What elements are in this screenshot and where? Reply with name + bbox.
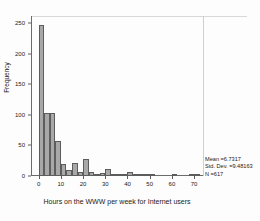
x-tick-mark — [83, 176, 84, 179]
y-tick-label: 0 — [22, 173, 25, 179]
y-tick-label: 100 — [15, 112, 25, 118]
y-tick-mark — [28, 145, 31, 146]
x-tick-mark — [61, 176, 62, 179]
y-tick-label: 50 — [18, 142, 25, 148]
x-tick-label: 50 — [146, 181, 153, 187]
x-tick-label: 30 — [102, 181, 109, 187]
x-tick-label: 60 — [169, 181, 176, 187]
y-tick-mark — [28, 53, 31, 54]
x-tick-label: 0 — [37, 181, 40, 187]
x-tick-label: 20 — [80, 181, 87, 187]
x-tick-label: 10 — [58, 181, 65, 187]
histogram-chart: 050100150200250 Frequency 01020304050607… — [0, 0, 260, 221]
y-tick-label: 150 — [15, 81, 25, 87]
plot-frame-right-edge — [203, 16, 204, 176]
y-tick-label: 200 — [15, 51, 25, 57]
x-tick-mark — [39, 176, 40, 179]
x-tick-label: 70 — [191, 181, 198, 187]
y-axis-label: Frequency — [3, 48, 10, 108]
stat-mean: Mean =6.7317 — [205, 156, 253, 163]
x-axis: 010203040506070 — [32, 176, 203, 190]
y-tick-mark — [28, 176, 31, 177]
x-tick-mark — [105, 176, 106, 179]
stat-std-dev: Std. Dev. =9.48163 — [205, 163, 253, 170]
y-tick-label: 250 — [15, 20, 25, 26]
x-tick-mark — [127, 176, 128, 179]
x-tick-label: 40 — [124, 181, 131, 187]
statistics-annotation: Mean =6.7317 Std. Dev. =9.48163 N =617 — [205, 156, 253, 178]
x-tick-mark — [150, 176, 151, 179]
y-tick-mark — [28, 84, 31, 85]
bar-series — [32, 16, 203, 176]
x-tick-mark — [194, 176, 195, 179]
x-axis-label: Hours on the WWW per week for Internet u… — [0, 198, 234, 205]
stat-n: N =617 — [205, 171, 253, 178]
y-tick-mark — [28, 114, 31, 115]
x-tick-mark — [172, 176, 173, 179]
y-tick-mark — [28, 23, 31, 24]
